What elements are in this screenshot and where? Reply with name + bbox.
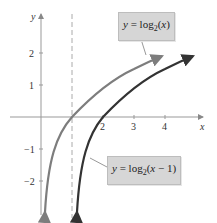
- svg-text:2: 2: [29, 48, 34, 59]
- plot-area: 2 3 4 x y 2 1 −1 −2: [0, 0, 217, 223]
- chart: 2 3 4 x y 2 1 −1 −2 y = log2(x) y = log2…: [0, 0, 217, 223]
- svg-text:3: 3: [131, 121, 136, 132]
- svg-text:4: 4: [162, 121, 167, 132]
- label-log2-x: y = log2(x): [118, 12, 175, 41]
- series-log2-x-minus-1: [77, 56, 193, 212]
- svg-text:x: x: [199, 121, 205, 132]
- svg-text:−1: −1: [24, 144, 35, 155]
- svg-text:1: 1: [29, 80, 34, 91]
- svg-text:−2: −2: [24, 176, 35, 187]
- series-log2-x: [45, 56, 162, 212]
- svg-text:2: 2: [100, 121, 105, 132]
- label-log2-x-minus-1: y = log2(x − 1): [107, 156, 181, 185]
- svg-text:y: y: [30, 11, 36, 22]
- callout-pointer-2: [90, 158, 107, 167]
